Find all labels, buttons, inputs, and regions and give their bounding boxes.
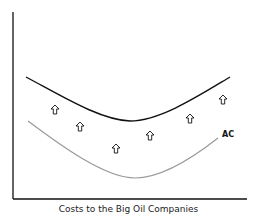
up-arrow-icon	[186, 114, 194, 123]
up-arrow-icon	[219, 95, 227, 104]
ac-curve	[28, 121, 218, 178]
up-arrow-icon	[51, 105, 59, 114]
x-axis-label: Costs to the Big Oil Companies	[0, 204, 257, 214]
ac-curve-label: AC	[222, 130, 234, 139]
diagram-canvas	[0, 0, 257, 217]
up-arrow-icon	[76, 122, 84, 131]
up-arrow-icon	[112, 144, 120, 153]
up-arrow-icon	[146, 131, 154, 140]
